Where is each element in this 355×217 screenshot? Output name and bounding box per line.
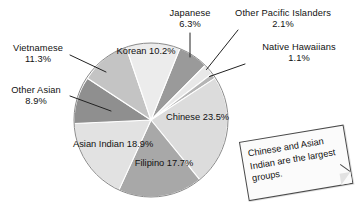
slice-label-asian-indian-line1: Asian [73, 139, 96, 149]
slice-label-korean-name: Korean [117, 46, 147, 56]
slice-label-native-hawaiians-name: Native Hawaiians [262, 42, 335, 52]
slice-label-vietnamese: Vietnamese 11.3% [2, 43, 74, 64]
slice-label-vietnamese-value: 11.3% [2, 54, 74, 65]
slice-label-japanese-name: Japanese [169, 8, 210, 18]
page-fold-icon [340, 172, 353, 185]
slice-label-filipino-name: Filipino [135, 158, 164, 168]
slice-label-other-asian: Other Asian 8.9% [1, 85, 71, 106]
slice-label-other-asian-name: Other Asian [11, 85, 61, 95]
slice-label-filipino-value: 17.7% [167, 158, 193, 168]
slice-label-chinese-name: Chinese [166, 112, 200, 122]
slice-label-filipino: Filipino 17.7% [133, 158, 195, 169]
slice-label-other-pacific-islanders-name: Other Pacific Islanders [235, 8, 331, 18]
slice-label-asian-indian-value: 18.9% [127, 139, 153, 149]
slice-label-chinese: Chinese 23.5% [166, 112, 228, 123]
slice-label-other-pacific-islanders-value: 2.1% [214, 19, 352, 30]
slice-label-asian-indian: Asian Indian 18.9% [73, 139, 133, 150]
pie-chart-figure: Japanese 6.3% Other Pacific Islanders 2.… [0, 0, 355, 217]
slice-label-korean-value: 10.2% [149, 46, 175, 56]
slice-label-other-asian-value: 8.9% [1, 96, 71, 107]
slice-label-korean: Korean 10.2% [116, 46, 176, 57]
slice-label-native-hawaiians: Native Hawaiians 1.1% [247, 42, 351, 63]
slice-label-other-pacific-islanders: Other Pacific Islanders 2.1% [214, 8, 352, 29]
slice-label-asian-indian-line2: Indian [99, 139, 124, 149]
slice-label-native-hawaiians-value: 1.1% [247, 53, 351, 64]
slice-label-vietnamese-name: Vietnamese [13, 43, 63, 53]
slice-label-chinese-value: 23.5% [203, 112, 229, 122]
